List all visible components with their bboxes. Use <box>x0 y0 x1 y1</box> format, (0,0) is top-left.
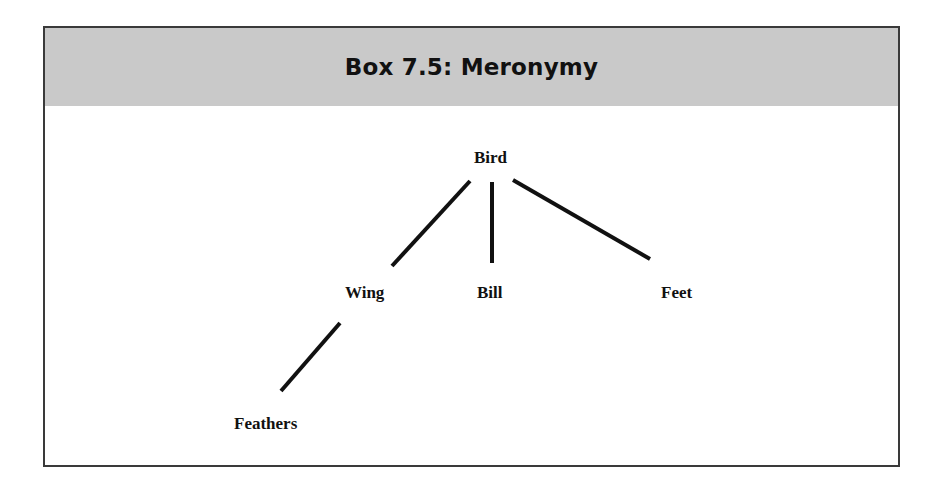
node-bill: Bill <box>477 284 503 301</box>
node-feathers: Feathers <box>234 415 297 432</box>
node-feet: Feet <box>661 284 692 301</box>
node-wing: Wing <box>345 284 384 301</box>
edge-bird-wing <box>392 181 470 266</box>
meronymy-tree-diagram <box>0 0 941 498</box>
edge-wing-feathers <box>281 323 340 391</box>
edge-bird-feet <box>513 180 650 259</box>
tree-edges <box>281 180 650 391</box>
node-bird: Bird <box>474 149 507 166</box>
